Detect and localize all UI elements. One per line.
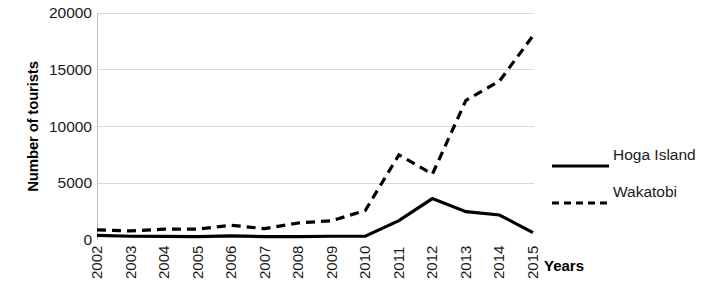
x-tick-label: 2015 — [525, 223, 540, 279]
y-tick-label: 5000 — [24, 175, 92, 191]
x-tick-label: 2008 — [290, 223, 305, 279]
y-tick-label: 0 — [24, 232, 92, 248]
y-tick-label: 10000 — [24, 119, 92, 135]
chart-legend: Hoga IslandWakatobi — [552, 143, 702, 217]
x-tick-label: 2007 — [257, 223, 272, 279]
x-tick-label: 2009 — [324, 223, 339, 279]
x-tick-label: 2003 — [123, 223, 138, 279]
x-tick-label: 2014 — [491, 223, 506, 279]
x-tick-label: 2006 — [223, 223, 238, 279]
x-tick-label: 2002 — [89, 223, 104, 279]
y-tick-label: 15000 — [24, 62, 92, 78]
legend-item[interactable]: Hoga Island — [552, 143, 702, 180]
x-axis-title: Years — [544, 257, 584, 274]
series-line-wakatobi — [97, 36, 533, 231]
legend-label: Hoga Island — [613, 146, 696, 163]
x-tick-label: 2013 — [458, 223, 473, 279]
legend-item[interactable]: Wakatobi — [552, 180, 702, 217]
legend-label: Wakatobi — [613, 183, 677, 200]
x-tick-label: 2005 — [190, 223, 205, 279]
plot-svg — [97, 13, 534, 240]
x-tick-label: 2011 — [391, 223, 406, 279]
x-tick-label: 2010 — [357, 223, 372, 279]
x-tick-label: 2012 — [424, 223, 439, 279]
y-tick-label: 20000 — [24, 5, 92, 21]
dashed-line-icon — [552, 191, 609, 195]
x-tick-label: 2004 — [156, 223, 171, 279]
y-axis-tick-labels: 05000100001500020000 — [24, 0, 92, 299]
tourist-numbers-line-chart: Number of tourists 05000100001500020000 … — [0, 0, 705, 299]
plot-area — [97, 13, 534, 240]
solid-line-icon — [552, 154, 609, 158]
x-axis-tick-labels: 2002200320042005200620072008200920102011… — [97, 243, 534, 299]
